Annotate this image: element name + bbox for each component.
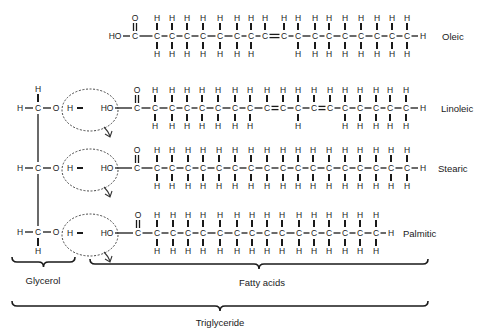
hydrogen-atom: H	[234, 246, 240, 256]
hydrogen-atom: H	[232, 145, 238, 155]
carbon-atom: C	[357, 163, 363, 173]
fatty-acid-label: Palmitic	[403, 228, 437, 239]
hydrogen-atom: H	[312, 13, 318, 23]
hydrogen-atom: H	[199, 85, 205, 95]
hydrogen-atom: H	[217, 210, 223, 220]
glycerol-row-3: HCO	[17, 227, 60, 237]
hydrogen-atom: H	[388, 181, 394, 191]
glycerol-structure: HCOHCOHCOHH	[17, 84, 60, 256]
carbon-atom: C	[169, 31, 175, 41]
brace-glycerol: Glycerol	[12, 257, 75, 286]
hydrogen-atom: H	[264, 210, 270, 220]
hydrogen-atom: H	[403, 121, 409, 131]
carbon-atom: C	[264, 228, 270, 238]
carbon-atom: C	[358, 31, 364, 41]
carbonyl-carbon: C	[135, 228, 141, 238]
fatty-acid-linoleic: HOCOCHHCHHCHHCHHCHHCHHCHHCHCHCHHCHCHCHHC…	[62, 85, 473, 137]
hydrogen-atom: H	[154, 145, 160, 155]
carbon-atom: C	[279, 228, 285, 238]
hydrogen-atom: H	[154, 181, 160, 191]
hydrogen-atom: H	[154, 246, 160, 256]
hydrogen-atom: H	[389, 49, 395, 59]
hydrogen-atom: H	[184, 13, 190, 23]
hydrogen-atom: H	[279, 246, 285, 256]
carbon-atom: C	[280, 163, 286, 173]
water-removal-group: H	[62, 214, 118, 262]
hydrogen-atom: H	[234, 49, 240, 59]
fatty-acid-label: Oleic	[442, 31, 464, 42]
carbon-atom: C	[389, 31, 395, 41]
hydroxyl-group: HO	[101, 103, 114, 113]
carbon-atom: C	[327, 103, 333, 113]
carbon-atom: C	[312, 31, 318, 41]
hydrogen-atom: H	[326, 246, 332, 256]
carbon-atom: C	[232, 163, 238, 173]
terminal-hydrogen: H	[388, 228, 394, 238]
hydrogen-atom: H	[234, 210, 240, 220]
curly-brace-icon	[12, 257, 75, 267]
hydrogen-atom: H	[217, 49, 223, 59]
carbon-atom: C	[215, 103, 221, 113]
carbon-atom: C	[264, 163, 270, 173]
hydrogen-atom: H	[358, 49, 364, 59]
removed-hydrogen: H	[67, 103, 73, 113]
hydroxyl-group: HO	[101, 163, 114, 173]
carbon-atom: C	[373, 228, 379, 238]
carbon-atom: C	[326, 228, 332, 238]
double-bond	[272, 106, 279, 109]
carbon-atom: C	[216, 163, 222, 173]
hydrogen-atom: H	[264, 246, 270, 256]
carbonyl-oxygen: O	[132, 13, 139, 23]
hydrogen-atom: H	[310, 181, 316, 191]
hydrogen-atom: H	[280, 181, 286, 191]
carbon-atom: C	[200, 228, 206, 238]
removed-hydrogen: H	[67, 163, 73, 173]
carbon-atom: C	[184, 31, 190, 41]
carbon-atom: C	[387, 103, 393, 113]
oxygen-atom: O	[53, 163, 60, 173]
hydrogen-atom: H	[342, 181, 348, 191]
hydrogen-atom: H	[374, 49, 380, 59]
carbonyl-oxygen: O	[134, 145, 141, 155]
hydrogen-atom: H	[342, 121, 348, 131]
hydrogen-atom: H	[17, 163, 23, 173]
carbon-atom: C	[404, 31, 410, 41]
hydrogen-atom: H	[152, 121, 158, 131]
hydroxyl-group: HO	[101, 228, 114, 238]
hydrogen-atom: H	[216, 181, 222, 191]
hydrogen-atom: H	[342, 13, 348, 23]
carbon-atom: C	[200, 31, 206, 41]
hydrogen-atom: H	[373, 85, 379, 95]
carbon-atom: C	[311, 103, 317, 113]
curly-brace-icon	[12, 301, 428, 311]
carbon-atom: C	[281, 31, 287, 41]
hydrogen-atom: H	[404, 181, 410, 191]
hydrogen-atom: H	[279, 210, 285, 220]
hydrogen-atom: H	[185, 145, 191, 155]
hydrogen-atom: H	[248, 13, 254, 23]
carbon-atom: C	[342, 31, 348, 41]
hydrogen-atom: H	[296, 246, 302, 256]
carbon-atom: C	[373, 103, 379, 113]
hydrogen-atom: H	[358, 13, 364, 23]
hydrogen-atom: H	[152, 85, 158, 95]
hydrogen-atom: H	[262, 13, 268, 23]
hydrogen-atom: H	[357, 210, 363, 220]
hydrogen-atom: H	[295, 121, 301, 131]
hydrogen-atom: H	[215, 85, 221, 95]
carbon-atom: C	[404, 163, 410, 173]
carbon-atom: C	[310, 163, 316, 173]
hydrogen-atom: H	[389, 13, 395, 23]
hydrogen-atom: H	[154, 13, 160, 23]
hydrogen-atom: H	[232, 181, 238, 191]
oxygen-atom: O	[53, 103, 60, 113]
hydrogen-atom: H	[373, 210, 379, 220]
hydrogen-atom: H	[357, 181, 363, 191]
hydrogen-atom: H	[249, 210, 255, 220]
hydrogen-atom: H	[357, 145, 363, 155]
carbonyl-oxygen: O	[135, 210, 142, 220]
hydrogen-atom: H	[295, 49, 301, 59]
hydrogen-atom: H	[35, 84, 41, 94]
hydrogen-atom: H	[185, 246, 191, 256]
hydrogen-atom: H	[184, 121, 190, 131]
